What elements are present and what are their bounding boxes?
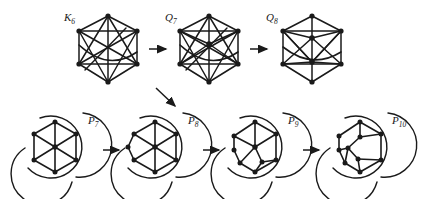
graph-transformation-figure: K6 xyxy=(0,0,432,199)
figure-background xyxy=(0,0,432,199)
figure-canvas: K6 xyxy=(0,0,432,199)
